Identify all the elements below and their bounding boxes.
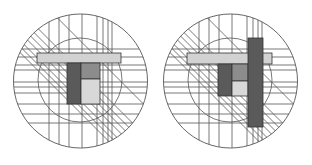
dark-block	[67, 63, 81, 104]
tall-dark-bar	[248, 38, 263, 127]
dark-block	[218, 64, 232, 96]
panel-left	[14, 0, 148, 165]
circle-line-diagram	[0, 0, 312, 165]
diagram-stage	[0, 0, 312, 165]
light-bar	[37, 53, 121, 63]
light-block	[232, 81, 248, 96]
panel-right	[164, 0, 298, 165]
light-block	[81, 79, 100, 104]
mid-block	[81, 63, 100, 79]
mid-block	[232, 64, 248, 81]
